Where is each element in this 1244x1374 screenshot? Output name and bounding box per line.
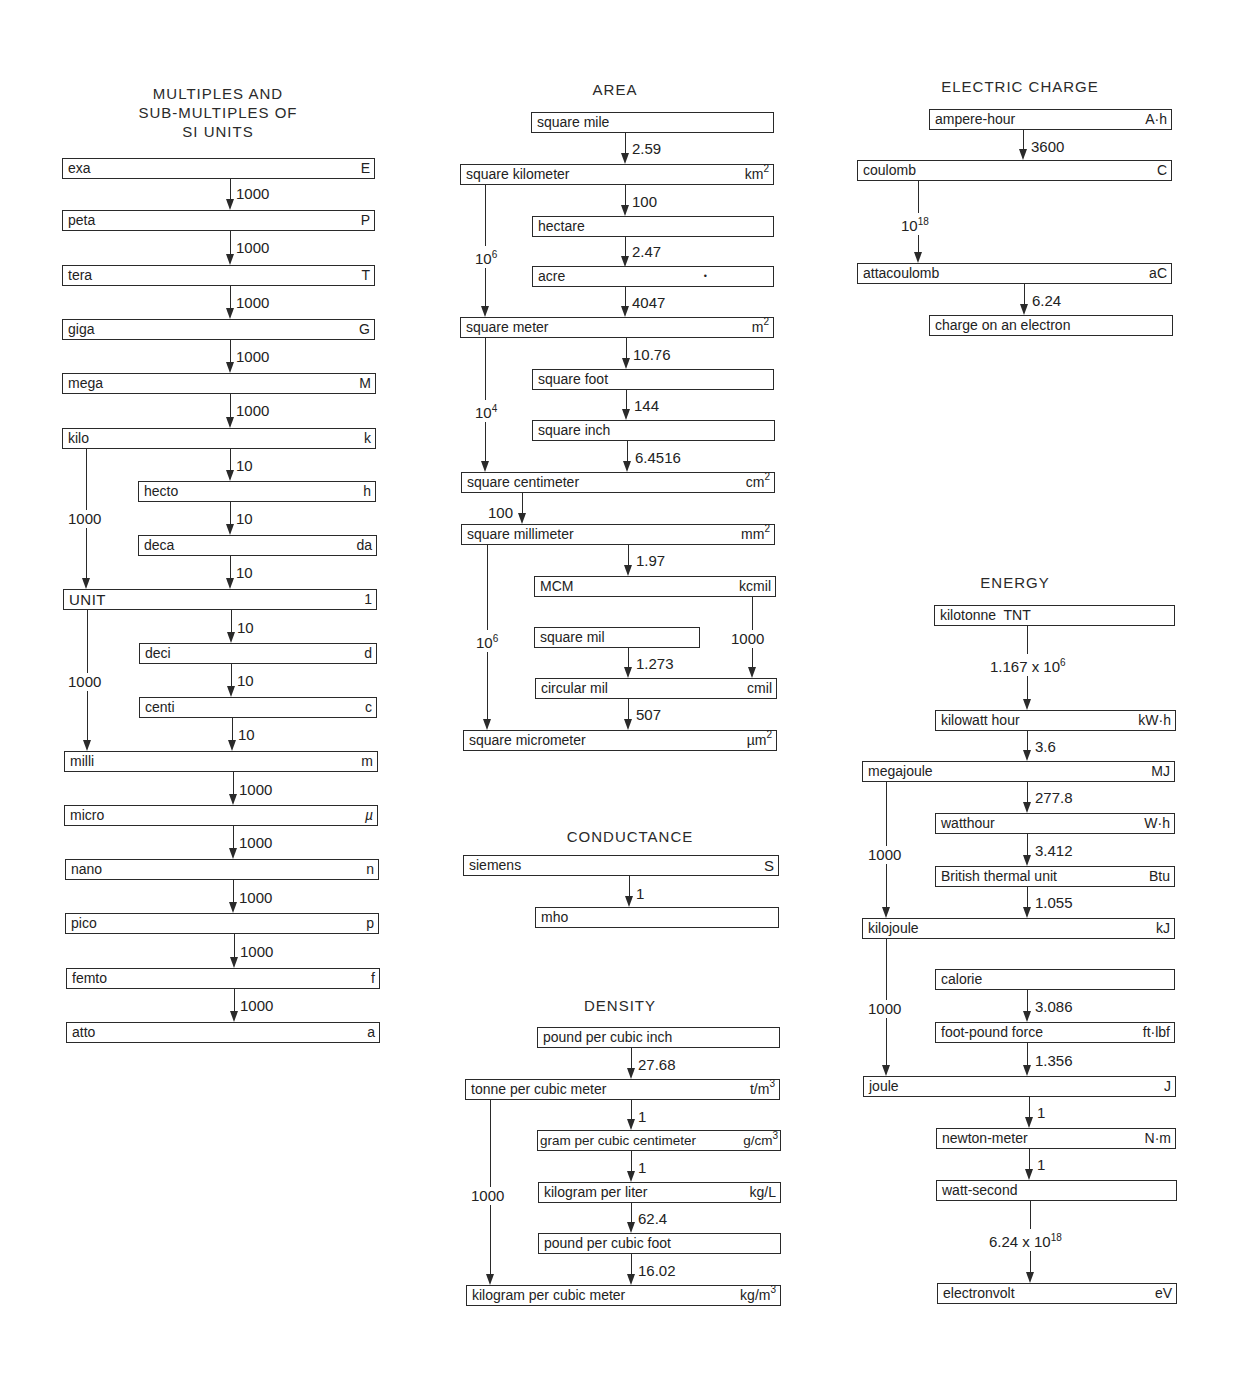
symbol-base: kg/m: [740, 1287, 770, 1303]
factor-label: 10: [236, 511, 253, 527]
box-unit: UNIT1: [63, 589, 377, 610]
box-square-millimeter: square millimetermm2: [461, 524, 775, 545]
box-square-micrometer: square micrometerµm2: [463, 730, 777, 751]
factor-exponent: 6: [1060, 657, 1066, 668]
unit-name: charge on an electron: [935, 316, 1070, 335]
connector-line: [1027, 990, 1028, 1011]
arrow-down-icon: [622, 358, 630, 369]
unit-name: pound per cubic foot: [544, 1234, 671, 1253]
factor-label: 10: [237, 620, 254, 636]
si-title-line-3: SI UNITS: [118, 122, 318, 141]
arrow-down-icon: [882, 1065, 890, 1076]
arrow-down-icon: [230, 957, 238, 968]
factor-label: 1: [638, 1160, 646, 1176]
unit-name: foot-pound force: [941, 1023, 1043, 1042]
box-circular-mil: circular milcmil: [535, 678, 777, 699]
unit-name: peta: [68, 211, 95, 230]
unit-symbol: MJ: [1151, 762, 1170, 781]
arrow-down-icon: [83, 740, 91, 751]
connector-line: [628, 699, 629, 719]
connector-line: [1027, 834, 1028, 855]
factor-label: 1.055: [1035, 895, 1073, 911]
factor-base: 6.24 x 10: [989, 1233, 1051, 1250]
unit-symbol: J: [1164, 1077, 1171, 1096]
arrow-down-icon: [486, 1274, 494, 1285]
unit-name: MCM: [540, 577, 573, 596]
unit-name: watthour: [941, 814, 995, 833]
connector-line: [233, 772, 234, 794]
box-square-inch: square inch: [532, 420, 775, 441]
arrow-down-icon: [624, 565, 632, 576]
unit-name: pico: [71, 914, 97, 933]
symbol-exponent: 2: [764, 471, 770, 482]
factor-label: 3600: [1031, 139, 1064, 155]
box-acre: acre•: [532, 266, 774, 287]
factor-base: 10: [901, 217, 918, 234]
factor-label-exp: 1.167 x 106: [990, 654, 1066, 676]
factor-exponent: 18: [918, 216, 929, 227]
arrow-down-icon: [625, 896, 633, 907]
unit-name: megajoule: [868, 762, 933, 781]
unit-name: British thermal unit: [941, 867, 1057, 886]
factor-label: 1000: [236, 186, 269, 202]
arrow-down-icon: [621, 256, 629, 267]
unit-symbol: eV: [1155, 1284, 1172, 1303]
factor-label: 1000: [239, 835, 272, 851]
factor-label: 1: [1037, 1105, 1045, 1121]
unit-symbol: p: [366, 914, 374, 933]
factor-label: 277.8: [1035, 790, 1073, 806]
symbol-exponent: 2: [766, 729, 772, 740]
connector-line: [628, 545, 629, 565]
arrow-down-icon: [748, 667, 756, 678]
unit-name: square micrometer: [469, 731, 586, 750]
unit-name: mega: [68, 374, 103, 393]
unit-name: femto: [72, 969, 107, 988]
arrow-down-icon: [627, 1171, 635, 1182]
unit-name: hecto: [144, 482, 178, 501]
factor-label: 3.086: [1035, 999, 1073, 1015]
factor-label: 1000: [240, 944, 273, 960]
connector-line: [230, 231, 231, 254]
box-newton-meter: newton-meterN·m: [936, 1128, 1176, 1149]
factor-label: 1000: [471, 1187, 504, 1205]
connector-line: [231, 610, 232, 632]
connector-line: [1023, 130, 1024, 149]
box-square-centimeter: square centimetercm2: [461, 472, 775, 493]
unit-name: centi: [145, 698, 175, 717]
unit-name: mho: [541, 908, 568, 927]
connector-line: [1027, 782, 1028, 802]
unit-symbol: h: [363, 482, 371, 501]
unit-symbol: kg/m3: [740, 1286, 776, 1305]
page-header-clipped: [0, 0, 1244, 6]
factor-label: 1000: [239, 890, 272, 906]
unit-name: kilojoule: [868, 919, 919, 938]
unit-name: watt-second: [942, 1181, 1017, 1200]
arrow-down-icon: [229, 902, 237, 913]
factor-label: 1000: [68, 673, 101, 691]
box-mega: megaM: [62, 373, 376, 394]
box-hectare: hectare: [532, 216, 774, 237]
factor-label: 3.412: [1035, 843, 1073, 859]
symbol-base: km: [745, 166, 764, 182]
unit-symbol: kW·h: [1138, 711, 1171, 730]
box-coulomb: coulombC: [857, 160, 1172, 181]
box-square-mile: square mile: [531, 112, 774, 133]
unit-name: kilogram per cubic meter: [472, 1286, 625, 1305]
box-joule: jouleJ: [863, 1076, 1176, 1097]
arrow-down-icon: [621, 306, 629, 317]
box-megajoule: megajouleMJ: [862, 761, 1175, 782]
factor-label: 2.59: [632, 141, 661, 157]
box-siemens: siemensS: [463, 855, 779, 876]
connector-line: [1029, 1149, 1030, 1169]
factor-exponent: 18: [1051, 1232, 1062, 1243]
arrow-down-icon: [229, 794, 237, 805]
connector-line: [631, 1151, 632, 1171]
box-watthour: watthourW·h: [935, 813, 1175, 834]
arrow-down-icon: [1025, 1169, 1033, 1180]
factor-label: 1000: [236, 349, 269, 365]
connector-line: [631, 1254, 632, 1274]
arrow-down-icon: [226, 362, 234, 373]
connector-line: [230, 556, 231, 578]
unit-symbol: aC: [1149, 264, 1167, 283]
unit-name: kilo: [68, 429, 89, 448]
